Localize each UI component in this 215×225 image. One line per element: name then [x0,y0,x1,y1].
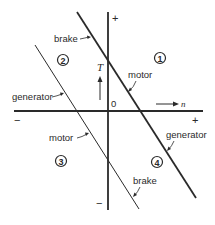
brake-label-top: brake [54,33,78,44]
horizontal-axis-negative-sign: − [14,114,20,126]
torque-axis-label: T [97,61,104,73]
brake-top-arrowhead-icon [87,36,91,40]
motor-left-arrowhead-icon [85,133,89,137]
generator-left-arrowhead-icon [60,93,64,97]
quadrant-1-marker: 1 [155,53,166,64]
speed-arrowhead-icon [173,102,179,107]
motor-left-leader [77,134,87,138]
horizontal-axis-positive-sign: + [192,114,198,126]
motor-right-arrowhead-icon [128,88,132,93]
speed-axis-label: n [181,99,186,109]
vertical-axis-negative-sign: − [96,197,102,209]
svg-text:2: 2 [60,56,65,66]
quadrant-3-marker: 3 [56,156,67,167]
generator-left-leader [52,94,62,97]
vertical-axis-positive-sign: + [112,12,118,24]
brake-label-bottom: brake [133,175,157,186]
quadrant-4-marker: 4 [152,157,163,168]
quadrant-2-marker: 2 [58,55,69,66]
svg-text:3: 3 [58,157,63,167]
generator-label-right: generator [166,129,207,140]
generator-label-left: generator [12,91,53,102]
torque-speed-diagram: + − − + T 0 n 1 2 3 4 brake motor genera… [0,0,215,225]
motor-label-right: motor [128,69,152,80]
origin-label: 0 [111,98,116,109]
svg-text:1: 1 [157,54,162,64]
reverse-characteristic-line [35,45,139,209]
forward-characteristic-line [77,12,196,198]
svg-text:4: 4 [154,158,159,168]
torque-arrowhead-icon [98,76,103,82]
motor-label-left: motor [49,132,73,143]
